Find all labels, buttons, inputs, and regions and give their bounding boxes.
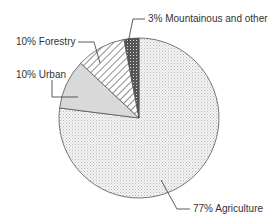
label-mountainous: 3% Mountainous and other — [148, 13, 268, 24]
label-agriculture: 77% Agriculture — [193, 203, 263, 214]
pie-chart — [0, 0, 277, 223]
label-urban: 10% Urban — [16, 69, 66, 80]
label-forestry: 10% Forestry — [16, 36, 75, 47]
